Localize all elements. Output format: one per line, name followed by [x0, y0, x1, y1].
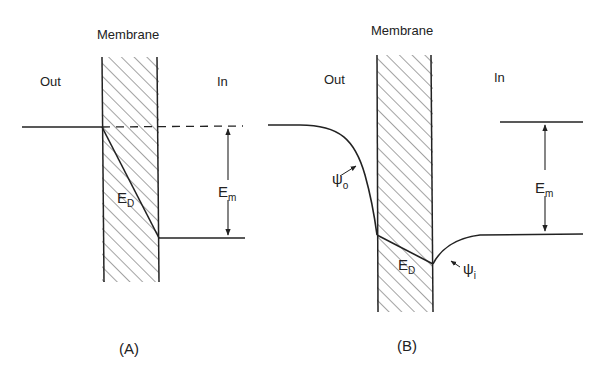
- membrane-a: [102, 57, 159, 282]
- caption-a: (A): [119, 340, 139, 357]
- psi-i-curve: [433, 234, 583, 264]
- caption-b: (B): [397, 337, 417, 354]
- membrane-label-b: Membrane: [371, 23, 433, 38]
- diagram-canvas: Membrane Out In Em ED (A) Membrane Out I…: [0, 0, 600, 370]
- psi-o-label: ψo: [332, 170, 349, 191]
- in-label-b: In: [494, 70, 505, 85]
- psi-o-curve: [268, 125, 377, 235]
- panel-b: Membrane Out In Em ED ψo ψi (B): [268, 23, 583, 354]
- membrane-b: [377, 55, 433, 312]
- psi-i-pointer: [451, 261, 460, 267]
- em-label-b: Em: [535, 179, 553, 199]
- membrane-b-left-edge: [377, 55, 378, 312]
- out-label-a: Out: [40, 74, 61, 89]
- psi-i-label: ψi: [463, 260, 476, 281]
- out-label-b: Out: [324, 72, 345, 87]
- em-label-a: Em: [218, 183, 236, 203]
- membrane-potential-diagram: Membrane Out In Em ED (A) Membrane Out I…: [0, 0, 600, 370]
- in-label-a: In: [217, 74, 228, 89]
- panel-a: Membrane Out In Em ED (A): [22, 27, 245, 357]
- membrane-label-a: Membrane: [97, 27, 159, 42]
